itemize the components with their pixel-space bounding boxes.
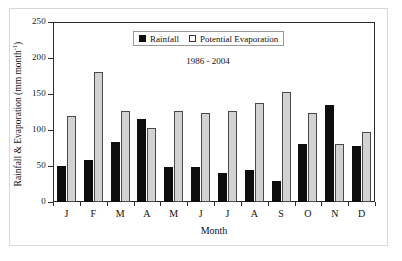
x-axis-tick-label-m-4: M [162, 208, 186, 219]
x-axis-tick-label-j-6: J [215, 208, 239, 219]
chart-subtitle: 1986 - 2004 [133, 56, 283, 66]
x-axis-tick [53, 202, 54, 206]
x-axis-tick [80, 202, 81, 206]
bar-potential-evaporation-m-2 [121, 111, 130, 202]
y-axis-tick [48, 202, 53, 203]
x-axis-tick-label-m-2: M [108, 208, 132, 219]
bar-potential-evaporation-a-3 [147, 128, 156, 202]
bar-potential-evaporation-f-1 [94, 72, 103, 202]
legend-item-potential-evaporation: Potential Evaporation [189, 34, 278, 44]
x-axis-tick [295, 202, 296, 206]
x-axis-tick-label-a-3: A [135, 208, 159, 219]
y-axis-title: Rainfall & Evaporation (mm month-1) [11, 34, 23, 194]
y-axis-tick-label: 50 [37, 161, 46, 170]
bar-potential-evaporation-n-10 [335, 144, 344, 202]
bar-rainfall-a-3 [137, 119, 146, 202]
x-axis-tick-label-f-1: F [81, 208, 105, 219]
bar-potential-evaporation-j-5 [201, 113, 210, 202]
y-axis-title-superscript: -1 [11, 45, 18, 50]
bar-potential-evaporation-j-0 [67, 116, 76, 202]
x-axis-tick [321, 202, 322, 206]
x-axis-title: Month [53, 225, 375, 236]
legend-swatch-potential-evaporation [189, 35, 196, 42]
legend-item-rainfall: Rainfall [139, 34, 179, 44]
bar-potential-evaporation-o-9 [308, 113, 317, 202]
plot-area [53, 22, 375, 202]
x-axis-tick-label-d-11: D [350, 208, 374, 219]
x-axis-tick [375, 202, 376, 206]
y-axis-tick-label: 250 [32, 17, 46, 26]
bar-rainfall-f-1 [84, 160, 93, 202]
bar-rainfall-j-0 [57, 166, 66, 202]
bar-rainfall-j-5 [191, 167, 200, 202]
x-axis-tick-label-n-10: N [323, 208, 347, 219]
x-axis-tick [134, 202, 135, 206]
bar-rainfall-n-10 [325, 105, 334, 202]
x-axis-tick [348, 202, 349, 206]
bar-potential-evaporation-j-6 [228, 111, 237, 202]
bar-potential-evaporation-a-7 [255, 103, 264, 202]
chart-legend: Rainfall Potential Evaporation [133, 31, 284, 46]
x-axis-tick-label-o-9: O [296, 208, 320, 219]
bar-rainfall-d-11 [352, 146, 361, 202]
y-axis-tick-label: 200 [32, 53, 46, 62]
y-axis-tick-label: 0 [41, 197, 46, 206]
y-axis-title-suffix: ) [13, 42, 23, 45]
bar-potential-evaporation-m-4 [174, 111, 183, 202]
y-axis-tick [48, 94, 53, 95]
x-axis-tick [107, 202, 108, 206]
x-axis-tick-label-a-7: A [242, 208, 266, 219]
x-axis-tick [187, 202, 188, 206]
bar-rainfall-m-2 [111, 142, 120, 202]
bar-rainfall-j-6 [218, 173, 227, 202]
bar-rainfall-m-4 [164, 167, 173, 202]
x-axis-tick-label-j-5: J [189, 208, 213, 219]
legend-label-potential-evaporation: Potential Evaporation [200, 34, 278, 44]
x-axis-tick [268, 202, 269, 206]
x-axis-tick [160, 202, 161, 206]
y-axis-tick-label: 150 [32, 89, 46, 98]
x-axis-tick-label-j-0: J [54, 208, 78, 219]
y-axis-tick [48, 166, 53, 167]
legend-swatch-rainfall [139, 35, 146, 42]
bar-rainfall-o-9 [298, 144, 307, 202]
x-axis-tick [214, 202, 215, 206]
legend-label-rainfall: Rainfall [150, 34, 179, 44]
chart-figure: 050100150200250 Rainfall & Evaporation (… [0, 0, 402, 261]
bar-potential-evaporation-d-11 [362, 132, 371, 202]
x-axis-tick-label-s-8: S [269, 208, 293, 219]
y-axis-tick [48, 58, 53, 59]
y-axis-title-text: Rainfall & Evaporation (mm month [13, 50, 23, 186]
y-axis-tick [48, 22, 53, 23]
y-axis-tick-label: 100 [32, 125, 46, 134]
y-axis-tick [48, 130, 53, 131]
x-axis-tick [241, 202, 242, 206]
bar-rainfall-s-8 [272, 181, 281, 202]
bar-rainfall-a-7 [245, 170, 254, 202]
bar-potential-evaporation-s-8 [282, 92, 291, 202]
